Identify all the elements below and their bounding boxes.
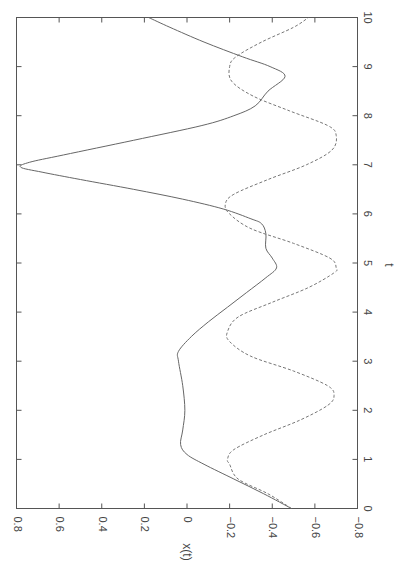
x-tick-label: 0.2 [139, 517, 151, 532]
t-tick-label: 10 [362, 11, 374, 23]
t-tick-label: 6 [362, 211, 374, 217]
x-tick-label: 0.4 [97, 517, 109, 532]
t-tick-label: 7 [362, 162, 374, 168]
plot-border [17, 18, 358, 509]
t-axis-ticks: 012345678910 [17, 11, 374, 511]
x-tick-label: 0 [182, 517, 194, 523]
line-chart: 012345678910 0.80.60.40.20−0.2−0.4−0.6−0… [0, 0, 404, 572]
t-tick-label: 9 [362, 64, 374, 70]
x-axis-title: x(t) [180, 543, 194, 560]
x-tick-label: 0.6 [54, 517, 66, 532]
series-line-dashed [225, 18, 337, 509]
t-tick-label: 4 [362, 309, 374, 315]
x-tick-label: −0.4 [267, 517, 279, 539]
t-tick-label: 8 [362, 113, 374, 119]
series-group [20, 18, 337, 509]
t-tick-label: 1 [362, 456, 374, 462]
series-line-solid [20, 18, 291, 509]
t-axis-title: t [382, 263, 396, 267]
plot-frame [17, 18, 358, 509]
x-tick-label: −0.6 [310, 517, 322, 539]
t-tick-label: 3 [362, 358, 374, 364]
x-tick-label: −0.8 [353, 517, 365, 539]
x-axis-ticks: 0.80.60.40.20−0.2−0.4−0.6−0.8 [12, 18, 365, 539]
t-tick-label: 5 [362, 260, 374, 266]
x-tick-label: −0.2 [225, 517, 237, 539]
t-tick-label: 0 [362, 505, 374, 511]
t-tick-label: 2 [362, 407, 374, 413]
x-tick-label: 0.8 [12, 517, 24, 532]
